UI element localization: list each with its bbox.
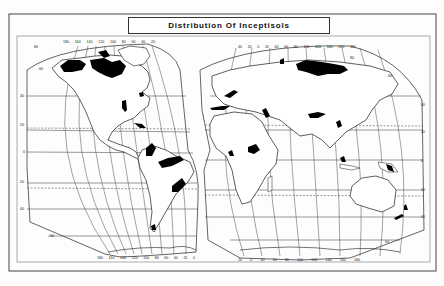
- tick-label: 60: [273, 258, 277, 262]
- north-island-area: [404, 204, 408, 210]
- eastern-top-longitude-labels: 40 20 0 20 40 60 80 100 120 140 160 180: [238, 45, 356, 49]
- tick-label: 60: [39, 67, 43, 71]
- map-title-box: Distribution Of Inceptisols: [128, 17, 330, 34]
- tick-label: 60: [284, 45, 288, 49]
- tick-label: 100: [143, 256, 149, 260]
- tick-label: 20: [183, 256, 187, 260]
- tick-label: 40: [275, 45, 279, 49]
- tick-label: 0: [250, 258, 252, 262]
- tick-label: 20: [421, 130, 425, 134]
- tick-label: 160: [338, 45, 344, 49]
- tick-label: 0: [257, 45, 259, 49]
- tick-label: 100: [303, 45, 309, 49]
- tick-label: 140: [327, 45, 333, 49]
- western-top-longitude-labels: 180 160 140 120 100 80 60 40 20: [63, 40, 155, 44]
- mediterranean-area: [210, 106, 230, 110]
- map-title: Distribution Of Inceptisols: [168, 21, 290, 30]
- tick-label: 80: [350, 56, 354, 60]
- tick-label: 40: [141, 40, 145, 44]
- tick-label: 40: [421, 215, 425, 219]
- tick-label: 160: [109, 256, 115, 260]
- tick-label: 80: [155, 256, 159, 260]
- madagascar-outline: [268, 176, 272, 192]
- tick-label: 180: [63, 40, 69, 44]
- tick-label: 20: [20, 123, 24, 127]
- tick-label: 140: [87, 40, 93, 44]
- sumatra-area: [340, 156, 346, 162]
- tick-label: 60: [132, 40, 136, 44]
- tick-label: 60: [385, 240, 389, 244]
- eastern-bottom-longitude-labels: 20 0 40 60 80 100 120 140 160 180: [238, 258, 360, 262]
- tick-label: 20: [151, 40, 155, 44]
- tick-label: 40: [260, 258, 264, 262]
- tick-label: 100: [110, 40, 116, 44]
- tick-label: 60: [388, 74, 392, 78]
- antarctica-outline-west: [108, 246, 196, 252]
- tick-label: 40: [174, 256, 178, 260]
- tick-label: 80: [285, 258, 289, 262]
- tick-label: 120: [132, 256, 138, 260]
- tick-label: 0: [193, 256, 195, 260]
- tick-label: 140: [326, 258, 332, 262]
- tick-label: 140: [120, 256, 126, 260]
- tick-label: 20: [421, 188, 425, 192]
- tick-label: 180: [97, 256, 103, 260]
- antarctica-outline-east: [240, 247, 400, 252]
- tick-label: 20: [238, 258, 242, 262]
- tick-label: 120: [311, 258, 317, 262]
- tick-label: 100: [297, 258, 303, 262]
- western-bottom-longitude-labels: 180 160 140 120 100 80 60 40 20 0: [97, 256, 195, 260]
- tick-label: 120: [98, 40, 104, 44]
- indonesia-outline: [340, 164, 360, 170]
- tick-label: 80: [122, 40, 126, 44]
- tick-label: 60: [50, 234, 54, 238]
- tick-label: 40: [20, 94, 24, 98]
- tick-label: 20: [248, 45, 252, 49]
- caribbean-area: [134, 123, 146, 128]
- tick-label: 20: [265, 45, 269, 49]
- australia-outline: [350, 176, 396, 212]
- tick-label: 120: [315, 45, 321, 49]
- western-hemisphere-map: [27, 44, 198, 257]
- tick-label: 0: [23, 150, 25, 154]
- tick-label: 0: [421, 159, 423, 163]
- tick-label: 20: [20, 180, 24, 184]
- map-page: Distribution Of Inceptisols 180 160 140 …: [0, 0, 444, 286]
- tick-label: 180: [350, 45, 356, 49]
- tick-label: 180: [354, 258, 360, 262]
- tick-label: 60: [164, 256, 168, 260]
- tick-label: 40: [238, 45, 242, 49]
- tick-label: 40: [20, 207, 24, 211]
- tick-label: 80: [294, 45, 298, 49]
- tick-label: 160: [75, 40, 81, 44]
- north-urals-area: [280, 58, 284, 64]
- tick-label: 160: [340, 258, 346, 262]
- tick-label: 40: [421, 103, 425, 107]
- tick-label: 80: [34, 45, 38, 49]
